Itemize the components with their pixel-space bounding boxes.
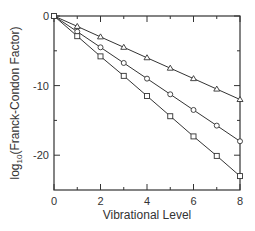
x-tick-label: 8 bbox=[237, 195, 243, 207]
x-tick-label: 4 bbox=[144, 195, 150, 207]
axis-ticks bbox=[54, 16, 240, 190]
y-tick-label: -20 bbox=[33, 149, 49, 161]
square-marker bbox=[168, 114, 173, 119]
circle-marker bbox=[214, 123, 219, 128]
tick-labels: 024680-10-20 bbox=[33, 10, 243, 207]
square-marker bbox=[121, 73, 126, 78]
x-tick-label: 0 bbox=[51, 195, 57, 207]
square-marker bbox=[191, 134, 196, 139]
square-marker bbox=[52, 14, 57, 19]
series-squares bbox=[52, 14, 243, 179]
series-triangles bbox=[51, 13, 243, 102]
square-marker bbox=[98, 54, 103, 59]
circle-marker bbox=[145, 76, 150, 81]
square-marker bbox=[145, 94, 150, 99]
x-tick-label: 6 bbox=[190, 195, 196, 207]
circle-marker bbox=[238, 139, 243, 144]
franck-condon-chart: 024680-10-20 Vibrational Level log10(Fra… bbox=[0, 0, 255, 231]
circle-marker bbox=[98, 45, 103, 50]
circle-marker bbox=[191, 107, 196, 112]
data-series bbox=[51, 13, 243, 179]
y-tick-label: -10 bbox=[33, 80, 49, 92]
plot-border bbox=[54, 16, 240, 190]
y-axis-title-suffix: (Franck-Condon Factor) bbox=[8, 27, 22, 155]
circle-marker bbox=[168, 92, 173, 97]
y-axis-title-prefix: log bbox=[8, 163, 22, 179]
y-axis-title: log10(Franck-Condon Factor) bbox=[8, 27, 24, 180]
x-tick-label: 2 bbox=[97, 195, 103, 207]
circle-marker bbox=[121, 60, 126, 65]
square-marker bbox=[214, 153, 219, 158]
plot-frame bbox=[54, 16, 240, 190]
series-circles bbox=[52, 14, 243, 144]
square-marker bbox=[238, 174, 243, 179]
square-marker bbox=[75, 34, 80, 39]
x-axis-title: Vibrational Level bbox=[103, 208, 192, 222]
y-tick-label: 0 bbox=[43, 10, 49, 22]
